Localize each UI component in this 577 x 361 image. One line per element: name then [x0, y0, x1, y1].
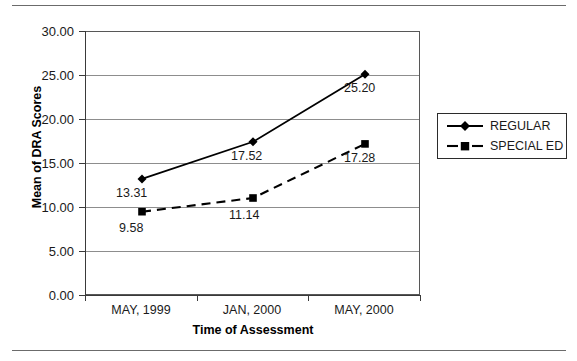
x-tick-label-may-2000: MAY, 2000 — [294, 303, 434, 317]
x-tick-mark-1 — [197, 295, 198, 301]
data-label-special-ed-2: 11.14 — [229, 209, 259, 222]
legend-key-regular-icon — [445, 119, 485, 133]
bottom-divider-rule — [12, 350, 566, 351]
y-tick-label-15: 15.00 — [14, 157, 74, 170]
plot-area: 13.31 17.52 25.20 9.58 11.14 17.28 — [85, 31, 420, 295]
y-tick-label-0: 0.00 — [14, 289, 74, 302]
marker-special-ed-2 — [249, 194, 257, 202]
legend-label-regular: REGULAR — [490, 120, 550, 133]
y-axis-title: Mean of DRA Scores — [30, 67, 44, 227]
legend-item-regular: REGULAR — [438, 116, 566, 136]
marker-regular-1 — [138, 174, 147, 183]
data-label-regular-3: 25.20 — [344, 82, 375, 95]
data-label-special-ed-3: 17.28 — [344, 152, 375, 165]
marker-special-ed-3 — [361, 140, 369, 148]
legend-key-special-ed-icon — [445, 139, 485, 153]
top-divider-rule — [12, 5, 566, 6]
y-tick-label-30: 30.00 — [14, 25, 74, 38]
x-axis-spine — [85, 295, 421, 296]
data-label-special-ed-1: 9.58 — [119, 222, 143, 235]
series-line-regular — [142, 74, 365, 179]
y-tick-label-5: 5.00 — [14, 245, 74, 258]
data-label-regular-1: 13.31 — [116, 187, 147, 200]
y-axis-spine — [85, 31, 86, 296]
data-label-regular-2: 17.52 — [231, 150, 262, 163]
y-tick-label-25: 25.00 — [14, 69, 74, 82]
y-tick-label-10: 10.00 — [14, 201, 74, 214]
figure-container: 30.00 25.00 20.00 15.00 10.00 5.00 0.00 — [0, 0, 577, 361]
marker-regular-3 — [361, 70, 370, 79]
marker-special-ed-1 — [138, 208, 146, 216]
chart-legend: REGULAR SPECIAL ED — [437, 113, 567, 159]
x-axis-title: Time of Assessment — [85, 323, 421, 337]
y-tick-label-20: 20.00 — [14, 113, 74, 126]
marker-regular-2 — [249, 137, 258, 146]
legend-item-special-ed: SPECIAL ED — [438, 136, 566, 156]
x-tick-mark-2 — [308, 295, 309, 301]
x-tick-mark-0 — [85, 295, 86, 301]
legend-label-special-ed: SPECIAL ED — [490, 140, 563, 153]
x-tick-mark-3 — [420, 295, 421, 301]
